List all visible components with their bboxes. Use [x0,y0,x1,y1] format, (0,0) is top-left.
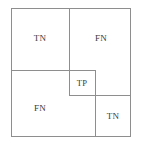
divider-horizontal-right [95,95,131,96]
region-label-center: TP [77,78,87,88]
divider-vertical-lower [95,95,96,137]
region-label-top-left: TN [34,33,46,43]
divider-horizontal-left [11,70,70,71]
region-label-top-right: FN [95,33,107,43]
region-label-bottom-right: TN [107,111,119,121]
region-label-bottom-left: FN [34,103,46,113]
diagram-canvas: TN FN TP FN TN [0,0,141,144]
